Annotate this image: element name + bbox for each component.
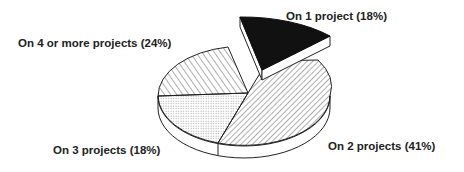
pie-chart: On 1 project (18%) On 2 projects (41%) O…: [0, 0, 464, 172]
slice-4-or-more-projects: [158, 47, 248, 96]
label-3-projects: On 3 projects (18%): [53, 144, 160, 156]
label-2-projects: On 2 projects (41%): [328, 140, 435, 152]
label-1-project: On 1 project (18%): [286, 10, 387, 22]
label-4-or-more-projects: On 4 or more projects (24%): [18, 37, 171, 49]
